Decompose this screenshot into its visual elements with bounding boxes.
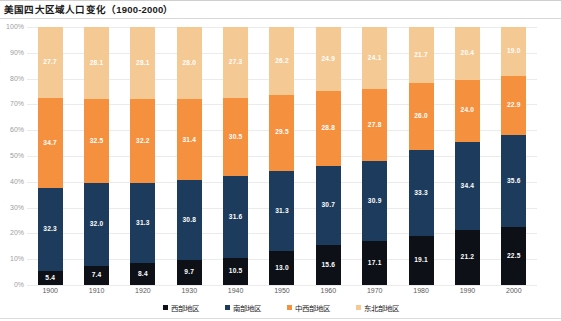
legend-item-label: 西部地区 [171, 302, 199, 313]
bar-segment[interactable]: 15.6 [316, 245, 341, 285]
bar-value-label: 32.3 [43, 226, 57, 233]
bar-segment[interactable]: 10.5 [223, 258, 248, 285]
bar-column[interactable]: 19.022.935.622.5 [491, 27, 537, 285]
bar-segment[interactable]: 31.6 [223, 176, 248, 258]
bar-segment[interactable]: 7.4 [84, 266, 109, 285]
legend-item-label: 中西部地区 [295, 302, 330, 313]
y-axis-tick-label: 80% [0, 75, 24, 82]
bar-value-label: 33.3 [414, 190, 428, 197]
bar-segment[interactable]: 8.4 [130, 263, 155, 285]
x-axis: 1900191019201930194019501960197019801990… [27, 285, 537, 299]
bar-column[interactable]: 28.031.430.89.7 [166, 27, 212, 285]
bar-segment[interactable]: 28.1 [84, 27, 109, 99]
bar-segment[interactable]: 26.2 [269, 27, 294, 95]
bar-segment[interactable]: 28.1 [130, 27, 155, 99]
bar-segment[interactable]: 35.6 [501, 135, 526, 227]
bar-value-label: 31.3 [275, 208, 289, 215]
bar-segment[interactable]: 27.7 [38, 27, 63, 98]
bar-segment[interactable]: 24.9 [316, 27, 341, 91]
legend-item[interactable]: 东北部地区 [356, 302, 399, 313]
bar-segment[interactable]: 27.3 [223, 27, 248, 98]
bar-segment[interactable]: 19.1 [409, 236, 434, 285]
bar-segment[interactable]: 20.4 [455, 27, 480, 80]
bar-segment[interactable]: 27.8 [362, 89, 387, 161]
bar-value-label: 34.7 [43, 140, 57, 147]
legend-item[interactable]: 南部地区 [225, 302, 261, 313]
x-axis-tick-label: 1990 [444, 285, 490, 299]
bar-segment[interactable]: 24.0 [455, 80, 480, 142]
bar-stack[interactable]: 19.022.935.622.5 [501, 27, 526, 285]
bar-segment[interactable]: 21.7 [409, 27, 434, 83]
bar-segment[interactable]: 30.7 [316, 166, 341, 245]
legend-swatch-icon [163, 305, 168, 310]
bar-value-label: 32.0 [90, 221, 104, 228]
population-stacked-bar-chart: 美国四大区域人口变化（1900-2000） 27.734.732.35.428.… [0, 0, 561, 321]
bar-column[interactable]: 24.928.830.715.6 [305, 27, 351, 285]
bar-segment[interactable]: 26.0 [409, 83, 434, 150]
bar-column[interactable]: 28.132.231.38.4 [120, 27, 166, 285]
bar-column[interactable]: 24.127.830.917.1 [352, 27, 398, 285]
bar-stack[interactable]: 26.229.531.313.0 [269, 27, 294, 285]
legend-swatch-icon [287, 305, 292, 310]
bottom-divider [0, 318, 561, 319]
bar-segment[interactable]: 32.2 [130, 99, 155, 182]
bar-stack[interactable]: 28.132.231.38.4 [130, 27, 155, 285]
bar-segment[interactable]: 31.3 [269, 171, 294, 252]
bar-value-label: 22.9 [507, 102, 521, 109]
bar-stack[interactable]: 28.031.430.89.7 [177, 27, 202, 285]
x-axis-tick-label: 1910 [73, 285, 119, 299]
bar-value-label: 31.3 [136, 220, 150, 227]
bar-segment[interactable]: 22.5 [501, 227, 526, 285]
bar-column[interactable]: 27.734.732.35.4 [27, 27, 73, 285]
bar-segment[interactable]: 9.7 [177, 260, 202, 285]
bar-segment[interactable]: 21.2 [455, 230, 480, 285]
bar-column[interactable]: 20.424.034.421.2 [444, 27, 490, 285]
bar-segment[interactable]: 33.3 [409, 150, 434, 236]
bar-segment[interactable]: 31.3 [130, 183, 155, 264]
bar-segment[interactable]: 24.1 [362, 27, 387, 89]
x-axis-tick-label: 1900 [27, 285, 73, 299]
bar-segment[interactable]: 32.3 [38, 188, 63, 271]
bar-segment[interactable]: 32.0 [84, 183, 109, 266]
legend-swatch-icon [356, 305, 361, 310]
bar-segment[interactable]: 30.9 [362, 161, 387, 241]
x-axis-tick-label: 1960 [305, 285, 351, 299]
bar-segment[interactable]: 32.5 [84, 99, 109, 183]
bar-segment[interactable]: 29.5 [269, 95, 294, 171]
bar-column[interactable]: 26.229.531.313.0 [259, 27, 305, 285]
x-axis-tick-label: 1950 [259, 285, 305, 299]
bar-segment[interactable]: 22.9 [501, 76, 526, 135]
bar-column[interactable]: 27.330.531.610.5 [212, 27, 258, 285]
legend-item[interactable]: 西部地区 [163, 302, 199, 313]
bar-column[interactable]: 21.726.033.319.1 [398, 27, 444, 285]
bar-stack[interactable]: 21.726.033.319.1 [409, 27, 434, 285]
bar-value-label: 20.4 [461, 50, 475, 57]
bar-stack[interactable]: 24.127.830.917.1 [362, 27, 387, 285]
bar-segment[interactable]: 17.1 [362, 241, 387, 285]
y-axis-tick-label: 90% [0, 49, 24, 56]
bar-value-label: 24.9 [322, 56, 336, 63]
bar-segment[interactable]: 34.7 [38, 98, 63, 187]
bar-segment[interactable]: 30.8 [177, 180, 202, 260]
bar-stack[interactable]: 20.424.034.421.2 [455, 27, 480, 285]
bar-stack[interactable]: 28.132.532.07.4 [84, 27, 109, 285]
bar-value-label: 22.5 [507, 253, 521, 260]
bar-segment[interactable]: 5.4 [38, 271, 63, 285]
bar-segment[interactable]: 13.0 [269, 251, 294, 285]
bar-stack[interactable]: 27.734.732.35.4 [38, 27, 63, 285]
y-axis-tick-label: 100% [0, 23, 24, 30]
bar-stack[interactable]: 27.330.531.610.5 [223, 27, 248, 285]
legend-item-label: 南部地区 [233, 302, 261, 313]
bar-value-label: 13.0 [275, 265, 289, 272]
bar-segment[interactable]: 19.0 [501, 27, 526, 76]
bar-segment[interactable]: 28.8 [316, 91, 341, 165]
bar-segment[interactable]: 28.0 [177, 27, 202, 99]
bar-value-label: 35.6 [507, 178, 521, 185]
legend-item[interactable]: 中西部地区 [287, 302, 330, 313]
bar-segment[interactable]: 31.4 [177, 99, 202, 180]
x-axis-tick-label: 1970 [352, 285, 398, 299]
bar-stack[interactable]: 24.928.830.715.6 [316, 27, 341, 285]
bar-segment[interactable]: 34.4 [455, 142, 480, 231]
bar-segment[interactable]: 30.5 [223, 98, 248, 177]
bar-column[interactable]: 28.132.532.07.4 [73, 27, 119, 285]
